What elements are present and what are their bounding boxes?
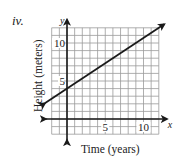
line-chart: xy 510510 [0, 0, 174, 163]
x-tick-label: 10 [138, 121, 150, 133]
x-axis-name: x [167, 119, 173, 130]
y-axis-name: y [59, 15, 65, 26]
x-tick-label: 5 [103, 121, 109, 133]
x-axis-label: Time (years) [81, 143, 140, 155]
y-axis-label: Height (meters) [32, 40, 44, 113]
y-tick-label: 10 [54, 37, 66, 49]
y-tick-label: 5 [60, 75, 66, 87]
